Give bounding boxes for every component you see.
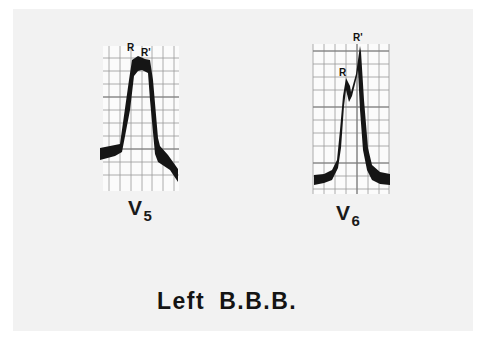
slide-background <box>13 9 473 331</box>
ecg-panel-v5: R R' <box>98 40 188 195</box>
lead-label-v5: V5 <box>128 197 152 223</box>
lead-label-v6: V6 <box>336 202 360 228</box>
peak-label-r: R <box>127 43 134 53</box>
peak-label-r-prime: R' <box>353 33 363 43</box>
ecg-panel-v6: R R' <box>310 30 400 200</box>
slide-caption: LeftB.B.B. <box>157 288 297 315</box>
ecg-trace-v6 <box>310 30 400 200</box>
caption-word-left: Left <box>157 288 205 314</box>
peak-label-r-prime: R' <box>141 48 151 58</box>
ecg-trace-v5 <box>98 40 188 195</box>
caption-word-bbb: B.B.B. <box>219 288 297 314</box>
peak-label-r: R <box>339 68 346 78</box>
